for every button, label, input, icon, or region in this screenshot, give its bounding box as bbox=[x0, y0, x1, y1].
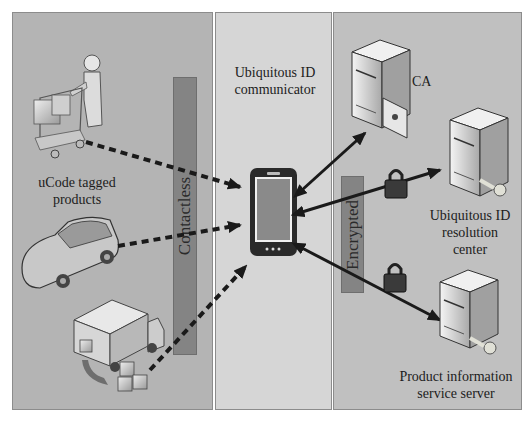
delivery-truck-icon bbox=[74, 300, 164, 391]
car-icon bbox=[22, 217, 118, 288]
server-key-icon bbox=[450, 108, 508, 196]
label-line: center bbox=[420, 241, 520, 258]
label-line: uCode tagged bbox=[22, 174, 132, 191]
padlock-icon bbox=[384, 265, 406, 293]
label-line: communicator bbox=[232, 81, 318, 98]
smartphone-icon bbox=[250, 168, 297, 256]
label-line: Product information bbox=[386, 368, 526, 385]
label-line: Ubiquitous ID bbox=[420, 207, 520, 224]
communicator-label: Ubiquitous ID communicator bbox=[232, 64, 318, 98]
label-line: service server bbox=[386, 385, 526, 402]
padlock-icon bbox=[385, 171, 407, 199]
label-line: Ubiquitous ID bbox=[232, 64, 318, 81]
server-certificate-icon bbox=[352, 40, 410, 138]
label-line: products bbox=[22, 191, 132, 208]
label-line: resolution bbox=[420, 224, 520, 241]
server-key-icon bbox=[440, 270, 498, 354]
resolution-center-label: Ubiquitous ID resolution center bbox=[420, 207, 520, 258]
ca-label: CA bbox=[412, 73, 442, 90]
product-server-label: Product information service server bbox=[386, 368, 526, 402]
ucode-products-label: uCode tagged products bbox=[22, 174, 132, 208]
